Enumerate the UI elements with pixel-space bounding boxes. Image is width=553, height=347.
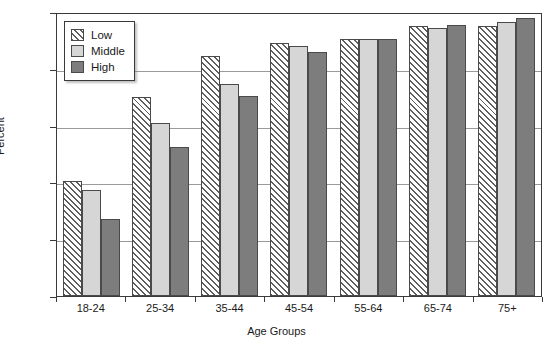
legend-item-low: Low — [71, 27, 125, 43]
x-tick-mark — [264, 297, 265, 302]
legend-label-low: Low — [91, 29, 112, 41]
bar-middle-18-24 — [82, 190, 101, 297]
legend-item-middle: Middle — [71, 43, 125, 59]
x-tick-mark — [56, 297, 57, 302]
bar-chart: Percent 020406080100 18-2425-3435-4445-5… — [0, 0, 553, 347]
bar-group — [264, 14, 333, 296]
x-tick-label: 55-64 — [354, 302, 382, 314]
legend-swatch-middle-icon — [71, 45, 84, 57]
bar-middle-55-64 — [359, 39, 378, 296]
bar-low-75+ — [478, 26, 497, 296]
x-axis-label: Age Groups — [0, 325, 553, 337]
bar-high-35-44 — [239, 96, 258, 296]
bar-middle-75+ — [497, 22, 516, 296]
x-tick-label: 35-44 — [215, 302, 243, 314]
bar-low-55-64 — [340, 39, 359, 296]
bar-middle-65-74 — [428, 28, 447, 296]
bar-low-45-54 — [270, 43, 289, 296]
bar-high-75+ — [516, 18, 535, 296]
bar-middle-35-44 — [220, 84, 239, 296]
x-tick-label: 65-74 — [424, 302, 452, 314]
legend: Low Middle High — [64, 21, 135, 81]
x-tick-mark — [125, 297, 126, 302]
bar-high-55-64 — [378, 39, 397, 296]
legend-label-high: High — [91, 61, 115, 73]
x-tick-label: 45-54 — [285, 302, 313, 314]
legend-item-high: High — [71, 59, 125, 75]
bar-middle-45-54 — [289, 46, 308, 296]
legend-swatch-high-icon — [71, 61, 84, 73]
bar-group — [126, 14, 195, 296]
bar-low-35-44 — [201, 56, 220, 296]
x-tick-label: 75+ — [498, 302, 517, 314]
x-tick-label: 18-24 — [77, 302, 105, 314]
bar-middle-25-34 — [151, 123, 170, 296]
x-tick-mark — [195, 297, 196, 302]
bar-group — [334, 14, 403, 296]
bar-low-18-24 — [63, 181, 82, 296]
x-tick-mark — [473, 297, 474, 302]
y-axis-label: Percent — [0, 117, 6, 155]
legend-label-middle: Middle — [91, 45, 125, 57]
x-tick-mark — [403, 297, 404, 302]
bar-high-25-34 — [170, 147, 189, 296]
x-tick-mark — [334, 297, 335, 302]
bar-group — [403, 14, 472, 296]
bar-low-25-34 — [132, 97, 151, 296]
bar-high-65-74 — [447, 25, 466, 296]
bar-high-18-24 — [101, 219, 120, 296]
bar-group — [195, 14, 264, 296]
x-tick-label: 25-34 — [146, 302, 174, 314]
x-tick-mark — [542, 297, 543, 302]
bar-group — [472, 14, 541, 296]
bar-low-65-74 — [409, 26, 428, 296]
legend-swatch-low-icon — [71, 29, 84, 41]
bar-high-45-54 — [308, 52, 327, 296]
